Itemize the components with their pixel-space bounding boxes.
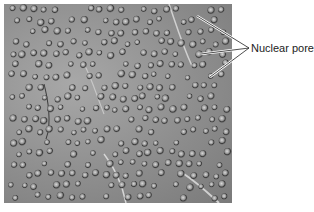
pointer-line-top (197, 16, 249, 48)
pointer-lines (0, 0, 314, 212)
nuclear-pores-label: Nuclear pores (251, 42, 314, 54)
